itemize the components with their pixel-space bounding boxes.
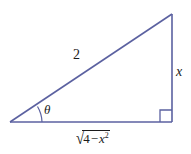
radicand: 4−x2 xyxy=(82,130,110,145)
adjacent-side-label: √4−x2 xyxy=(76,130,110,147)
triangle-hypotenuse-line xyxy=(10,14,172,122)
radicand-operator: − xyxy=(90,131,99,146)
trigonometry-figure: 2 x θ √4−x2 xyxy=(0,0,191,154)
opposite-side-label: x xyxy=(176,65,182,79)
radical-sign-icon: √ xyxy=(76,130,84,147)
radicand-exponent: 2 xyxy=(105,131,109,140)
angle-arc-icon xyxy=(38,107,43,123)
hypotenuse-label: 2 xyxy=(73,48,80,62)
right-angle-marker-icon xyxy=(160,110,172,122)
angle-theta-label: θ xyxy=(44,103,50,116)
square-root-expression: √4−x2 xyxy=(76,130,110,147)
